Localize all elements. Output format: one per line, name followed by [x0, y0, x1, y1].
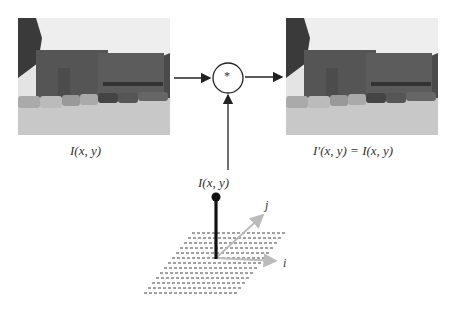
- j-axis-label: j: [265, 198, 268, 213]
- kernel-label: I(x, y): [198, 175, 229, 191]
- operator-symbol: *: [224, 69, 230, 84]
- j-axis: [216, 215, 263, 258]
- i-axis: [216, 258, 276, 261]
- i-axis-label: i: [283, 256, 286, 271]
- impulse-stem: [212, 193, 221, 260]
- diagram-overlay: [0, 0, 452, 313]
